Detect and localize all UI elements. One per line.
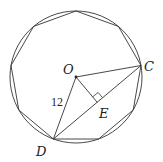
- label-O: O: [63, 62, 74, 77]
- label-length-OD: 12: [51, 95, 63, 109]
- segment-OC: [76, 66, 141, 78]
- label-D: D: [35, 144, 47, 159]
- right-angle-marker: [93, 92, 103, 97]
- center-point-O: [75, 76, 78, 79]
- geometry-diagram: O C D E 12: [0, 0, 163, 162]
- label-E: E: [98, 106, 109, 121]
- label-C: C: [144, 59, 154, 74]
- segment-OE: [76, 77, 97, 102]
